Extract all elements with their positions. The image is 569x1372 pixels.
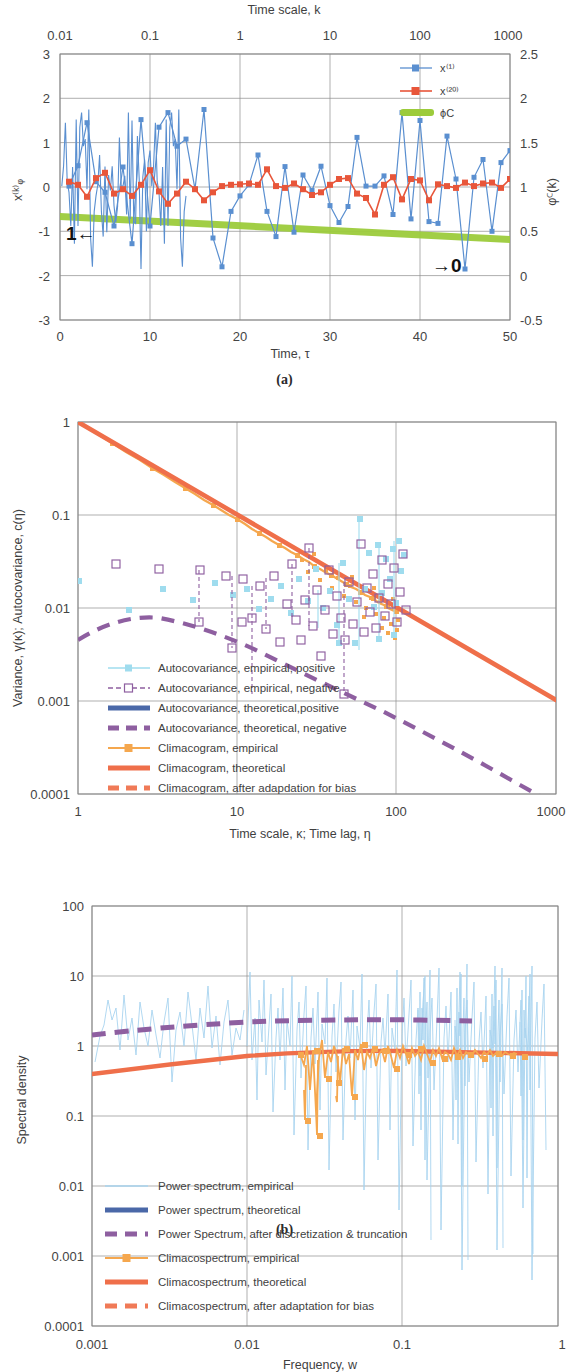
panel-a-right-tick-2: 1.5 — [520, 136, 538, 151]
panel-c-y-tick-0: 100 — [62, 899, 84, 914]
panel-a-left-tick-1: 2 — [43, 91, 50, 106]
panel-c-spectrum: 100 10 1 0.1 0.01 0.001 0.0001 0.001 0.0… — [0, 850, 569, 1372]
panel-b-gridlines — [78, 422, 556, 794]
panel-c-legend-label-3: Climacospectrum, empirical — [158, 1252, 299, 1264]
panel-b-legend-label-5: Climacogram, theoretical — [158, 762, 285, 774]
panel-a-bottom-tick-0: 0 — [56, 329, 63, 344]
panel-c-svg: 100 10 1 0.1 0.01 0.001 0.0001 0.001 0.0… — [0, 850, 569, 1372]
panel-b-y-tick-2: 0.01 — [45, 601, 70, 616]
panel-a-top-tick-3: 10 — [323, 28, 337, 43]
panel-a-legend-swatch-2 — [400, 109, 434, 116]
panel-b-legend-label-2: Autocovariance, theoretical,positive — [158, 702, 339, 714]
panel-b-y-axis-title: Variance, γ(κ); Autocovariance, c(η) — [11, 509, 25, 707]
panel-b-legend-label-1: Autocovariance, empirical, negative — [158, 682, 340, 694]
panel-a-bottom-tick-1: 10 — [143, 329, 157, 344]
panel-c-x-tick-3: 1 — [558, 1337, 565, 1352]
panel-c-x-tick-0: 0.001 — [76, 1337, 109, 1352]
panel-b-x-tick-0: 1 — [74, 804, 81, 819]
panel-a-left-tick-4: -1 — [38, 224, 50, 239]
panel-b-legend-label-6: Climacogram, after adapdation for bias — [158, 782, 356, 794]
panel-b-y-ticks: 1 0.1 0.01 0.001 0.0001 — [30, 415, 70, 802]
panel-b-y-tick-0: 1 — [63, 415, 70, 430]
panel-b-svg: 1 0.1 0.01 0.001 0.0001 1 10 100 1000 Ti… — [0, 400, 569, 850]
panel-c-y-tick-1: 10 — [70, 969, 84, 984]
panel-a-right-tick-4: 0.5 — [520, 224, 538, 239]
panel-b-legend-label-4: Climacogram, empirical — [158, 742, 278, 754]
panel-c-y-axis-title: Spectral density — [15, 1055, 29, 1145]
panel-b-legend-marker-1 — [125, 684, 133, 692]
panel-c-legend-marker-3 — [123, 1254, 131, 1262]
panel-a-top-tick-4: 100 — [409, 28, 431, 43]
panel-c-legend-label-0: Power spectrum, empirical — [158, 1180, 293, 1192]
panel-a-svg: Time scale, k 0.01 0.1 1 10 100 1000 — [0, 0, 569, 400]
panel-a-top-tick-2: 1 — [236, 28, 243, 43]
panel-c-legend-label-1: Power spectrum, theoretical — [158, 1204, 301, 1216]
panel-a-top-tick-5: 1000 — [494, 28, 523, 43]
panel-a-annotation-left: 1← — [66, 223, 96, 244]
panel-b-climacogram: 1 0.1 0.01 0.001 0.0001 1 10 100 1000 Ti… — [0, 400, 569, 850]
panel-b-legend: Autocovariance, empirical, positive Auto… — [108, 662, 356, 794]
panel-a-right-tick-0: 2.5 — [520, 47, 538, 62]
panel-c-x-tick-2: 0.1 — [393, 1337, 411, 1352]
panel-b-y-tick-3: 0.001 — [37, 694, 70, 709]
panel-b-x-axis-title: Time scale, κ; Time lag, η — [229, 827, 371, 841]
panel-a-legend-label-1: x⁽²⁰⁾ — [440, 85, 459, 97]
panel-b-legend-label-0: Autocovariance, empirical, positive — [158, 662, 335, 674]
panel-c-y-tick-6: 0.0001 — [44, 1319, 84, 1334]
panel-a-right-ticks: 2.5 2 1.5 1 0.5 0 -0.5 — [520, 47, 542, 328]
panel-b-y-tick-1: 0.1 — [52, 508, 70, 523]
panel-a-bottom-tick-2: 20 — [233, 329, 247, 344]
panel-a-legend-label-2: ϕC — [440, 107, 454, 119]
panel-a-legend-marker-0 — [412, 65, 419, 72]
panel-a-left-tick-0: 3 — [43, 47, 50, 62]
panel-a-right-tick-1: 2 — [520, 91, 527, 106]
panel-a-top-tick-0: 0.01 — [47, 28, 72, 43]
panel-c-power-spectrum-discretized — [92, 1020, 472, 1035]
panel-a-top-tick-1: 0.1 — [141, 28, 159, 43]
panel-c-legend-label-2: Power Spectrum, after discretization & t… — [158, 1228, 407, 1240]
panel-a-right-tick-3: 1 — [520, 180, 527, 195]
panel-a-bottom-tick-4: 40 — [413, 329, 427, 344]
panel-a-bottom-axis-title: Time, τ — [270, 347, 309, 361]
panel-a-legend-label-0: x⁽¹⁾ — [440, 62, 455, 74]
panel-c-y-tick-5: 0.001 — [51, 1249, 84, 1264]
panel-c-y-ticks: 100 10 1 0.1 0.01 0.001 0.0001 — [44, 899, 84, 1334]
panel-c-legend: Power spectrum, empirical Power spectrum… — [105, 1180, 407, 1312]
panel-b-x-tick-3: 1000 — [537, 804, 566, 819]
panel-a-legend-marker-1 — [412, 87, 420, 95]
panel-a-right-tick-6: -0.5 — [520, 313, 542, 328]
panel-a-right-tick-5: 0 — [520, 269, 527, 284]
panel-c-legend-label-4: Climacospectrum, theoretical — [158, 1276, 306, 1288]
panel-a-bottom-tick-5: 50 — [503, 329, 517, 344]
panel-c-x-ticks: 0.001 0.01 0.1 1 — [76, 1337, 566, 1352]
panel-a-time-series: Time scale, k 0.01 0.1 1 10 100 1000 — [0, 0, 569, 400]
figure-root: Time scale, k 0.01 0.1 1 10 100 1000 — [0, 0, 569, 1372]
caption-a: (a) — [0, 372, 569, 388]
panel-c-y-tick-4: 0.01 — [59, 1179, 84, 1194]
panel-b-legend-label-3: Autocovariance, theoretical, negative — [158, 722, 347, 734]
panel-b-legend-marker-0 — [125, 665, 132, 672]
panel-b-legend-marker-4 — [125, 744, 133, 752]
panel-a-bottom-ticks: 0 10 20 30 40 50 — [56, 329, 517, 344]
panel-b-x-ticks: 1 10 100 1000 — [74, 804, 565, 819]
panel-a-phic-band — [60, 213, 510, 243]
panel-c-x-tick-1: 0.01 — [234, 1337, 259, 1352]
panel-a-annotation-right: →0 — [432, 255, 462, 276]
panel-a-top-axis-title: Time scale, k — [247, 3, 321, 17]
panel-b-climacogram-empirical — [76, 420, 400, 640]
panel-a-left-tick-6: -3 — [38, 313, 50, 328]
panel-b-x-tick-2: 100 — [385, 804, 407, 819]
panel-a-left-tick-3: 0 — [43, 180, 50, 195]
panel-b-x-tick-1: 10 — [230, 804, 244, 819]
panel-a-right-axis-title: φꟲ(k) — [545, 178, 559, 206]
panel-a-legend: x⁽¹⁾ x⁽²⁰⁾ ϕC — [400, 62, 459, 119]
panel-a-bottom-tick-3: 30 — [323, 329, 337, 344]
panel-c-x-axis-title: Frequency, w — [283, 1358, 358, 1372]
panel-a-left-tick-5: -2 — [38, 269, 50, 284]
panel-c-y-tick-2: 1 — [77, 1039, 84, 1054]
panel-c-legend-label-5: Climacospectrum, after adaptation for bi… — [158, 1300, 374, 1312]
panel-b-y-tick-4: 0.0001 — [30, 787, 70, 802]
panel-c-y-tick-3: 0.1 — [66, 1109, 84, 1124]
panel-a-left-ticks: 3 2 1 0 -1 -2 -3 — [38, 47, 50, 328]
panel-a-left-tick-2: 1 — [43, 136, 50, 151]
